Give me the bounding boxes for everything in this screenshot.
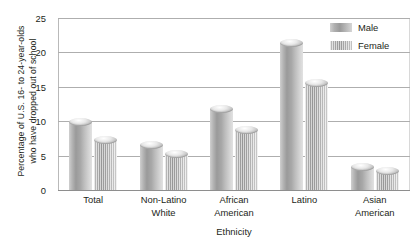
bar [280,43,303,190]
x-axis-tick-label: Non-LatinoWhite [128,194,200,219]
bar [376,171,399,190]
x-axis-tick-label: AfricanAmerican [198,194,270,219]
bar-top-cap [94,136,117,144]
legend-swatch-male-icon [330,23,352,32]
legend-label-male: Male [358,22,378,33]
x-axis-tick-label-line: Asian [339,194,411,207]
x-axis-tick-label: Latino [268,194,340,207]
bar [210,109,233,190]
x-axis-tick-label-line: African [198,194,270,207]
bar [69,122,92,190]
bar-body [140,145,163,190]
y-axis-title-line-2: who have dropped out of school [28,6,38,196]
bar-top-cap [210,105,233,113]
bar-body [94,140,117,190]
y-axis-tick-label: 0 [6,185,46,196]
bar [94,140,117,190]
bar-body [210,109,233,190]
x-axis-tick-labels: TotalNon-LatinoWhiteAfricanAmericanLatin… [58,194,410,228]
x-axis-tick-label-line: Non-Latino [128,194,200,207]
y-axis-tick-label: 15 [6,81,46,92]
x-axis-tick-label-line: Total [57,194,129,207]
x-axis-tick-label-line: American [339,207,411,220]
bar [165,154,188,190]
bar [140,145,163,190]
legend-label-female: Female [358,40,389,51]
bar-top-cap [69,118,92,126]
y-axis-title-line-1: Percentage of U.S. 16- to 24-year-olds [16,6,26,196]
bar [351,167,374,190]
bar-top-cap [376,167,399,175]
x-axis-tick-label-line: Latino [268,194,340,207]
legend-item-female: Female [330,37,416,53]
x-axis-tick-label: Total [57,194,129,207]
x-axis-tick-label: AsianAmerican [339,194,411,219]
legend-item-male: Male [330,19,416,35]
y-axis-tick-label: 5 [6,150,46,161]
bar-body [235,130,258,190]
legend: Male Female [330,19,416,55]
legend-swatch-female-icon [330,41,352,50]
y-axis-tick-label: 10 [6,116,46,127]
bar-body [165,154,188,190]
x-axis-tick-label-line: White [128,207,200,220]
bar [305,83,328,190]
x-axis-tick-label-line: American [198,207,270,220]
y-axis-tick-label: 20 [6,47,46,58]
gridline [58,190,410,191]
bar-body [69,122,92,190]
bar-top-cap [351,163,374,171]
y-axis-tick-label: 25 [6,13,46,24]
bar-chart: Percentage of U.S. 16- to 24-year-olds w… [0,0,420,245]
x-axis-title: Ethnicity [58,226,410,237]
bar-body [305,83,328,190]
bar [235,130,258,190]
bar-top-cap [280,39,303,47]
y-axis-title: Percentage of U.S. 16- to 24-year-olds w… [4,0,38,200]
bar-body [280,43,303,190]
